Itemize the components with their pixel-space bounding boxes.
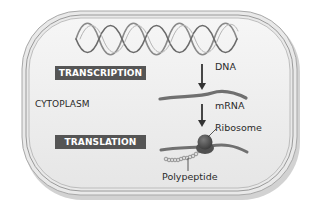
mrna-label: mRNA — [215, 101, 244, 111]
translation-label: TRANSLATION — [55, 135, 146, 149]
cytoplasm-label: CYTOPLASM — [35, 100, 90, 109]
polypeptide-label: Polypeptide — [162, 172, 218, 182]
dna-label: DNA — [215, 62, 236, 72]
ribosome-label: Ribosome — [215, 123, 262, 133]
diagram-canvas: TRANSCRIPTION TRANSLATION CYTOPLASM DNA … — [0, 0, 313, 212]
transcription-label: TRANSCRIPTION — [55, 66, 146, 80]
